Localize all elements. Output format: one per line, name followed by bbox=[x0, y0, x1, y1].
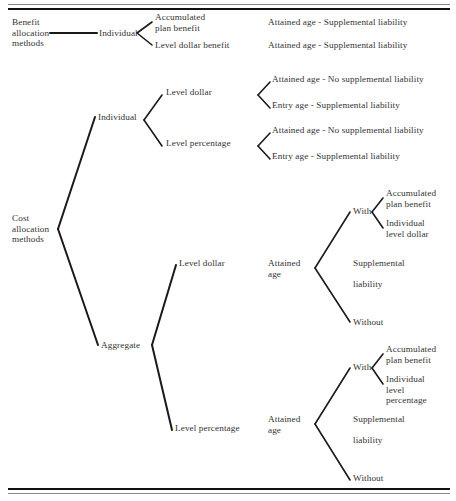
diagram-page: Benefit allocation methods Individual Ac… bbox=[0, 0, 456, 501]
aggregate-branch-1-without-label: Without bbox=[353, 473, 383, 484]
benefit-branch-1-label: Level dollar benefit bbox=[155, 40, 229, 51]
aggregate-branch-1-supplemental: Supplemental liability bbox=[353, 414, 405, 446]
cost-root-label: Cost allocation methods bbox=[12, 213, 49, 245]
cost-individual-branch-1-result-0: Attained age - No supplemental liability bbox=[272, 125, 424, 136]
benefit-individual-label: Individual bbox=[99, 28, 138, 39]
cost-trunk-to-aggregate bbox=[58, 229, 98, 345]
cost-individual-branch-0-result-0: Attained age - No supplemental liability bbox=[272, 74, 424, 85]
with-dollar-fork-upper bbox=[372, 198, 383, 212]
benefit-fork-upper bbox=[137, 22, 152, 33]
level-percentage-leaf-fork-upper bbox=[258, 133, 270, 146]
aggregate-branch-0-label: Level dollar bbox=[179, 258, 225, 269]
attained-age-percentage-fork-upper bbox=[315, 368, 350, 424]
benefit-branch-0-label: Accumulated plan benefit bbox=[155, 12, 205, 33]
level-dollar-leaf-fork-upper bbox=[258, 82, 270, 95]
aggregate-branch-1-with-label: With bbox=[353, 362, 371, 373]
with-percentage-fork-upper bbox=[372, 354, 383, 368]
cost-individual-fork-upper bbox=[144, 95, 162, 120]
aggregate-branch-0-supplemental: Supplemental liability bbox=[353, 258, 405, 290]
aggregate-branch-0-with-item-1: Individual level dollar bbox=[386, 218, 429, 239]
level-dollar-leaf-fork-lower bbox=[258, 95, 270, 108]
aggregate-branch-1-label: Level percentage bbox=[175, 423, 240, 434]
with-dollar-fork-lower bbox=[372, 212, 383, 228]
aggregate-branch-1-with-item-1: Individual level percentage bbox=[386, 374, 427, 406]
cost-individual-branch-1-label: Level percentage bbox=[166, 138, 231, 149]
aggregate-branch-1-with-item-0: Accumulated plan benefit bbox=[386, 344, 436, 365]
benefit-fork-lower bbox=[137, 33, 152, 45]
benefit-branch-1-result: Attained age - Supplemental liability bbox=[268, 40, 407, 51]
aggregate-branch-0-with-label: With bbox=[353, 206, 371, 217]
aggregate-branch-0-without-label: Without bbox=[353, 317, 383, 328]
with-percentage-fork-lower bbox=[372, 368, 383, 384]
aggregate-branch-0-age: Attained age bbox=[268, 258, 300, 279]
aggregate-fork-lower bbox=[152, 345, 172, 430]
cost-individual-branch-1-result-1: Entry age - Supplemental liability bbox=[272, 151, 400, 162]
attained-age-dollar-fork-lower bbox=[315, 268, 350, 322]
cost-aggregate-label: Aggregate bbox=[101, 340, 140, 351]
benefit-root-label: Benefit allocation methods bbox=[12, 17, 49, 49]
cost-individual-branch-0-label: Level dollar bbox=[166, 87, 212, 98]
attained-age-percentage-fork-lower bbox=[315, 424, 350, 480]
attained-age-dollar-fork-upper bbox=[315, 212, 350, 268]
cost-individual-fork-lower bbox=[144, 120, 162, 146]
aggregate-branch-1-age: Attained age bbox=[268, 414, 300, 435]
aggregate-branch-0-with-item-0: Accumulated plan benefit bbox=[386, 188, 436, 209]
aggregate-fork-upper bbox=[152, 265, 176, 345]
cost-trunk-to-individual bbox=[58, 117, 95, 229]
cost-individual-branch-0-result-1: Entry age - Supplemental liability bbox=[272, 100, 400, 111]
benefit-branch-0-result: Attained age - Supplemental liability bbox=[268, 17, 407, 28]
cost-individual-label: Individual bbox=[98, 112, 137, 123]
level-percentage-leaf-fork-lower bbox=[258, 146, 270, 159]
